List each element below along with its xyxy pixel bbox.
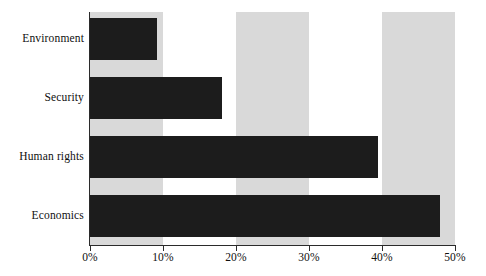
plot-area [90, 12, 455, 245]
bar-security[interactable] [90, 77, 222, 119]
x-tick-label-4: 40% [371, 252, 393, 264]
bar-environment[interactable] [90, 18, 157, 60]
category-label-human-rights: Human rights [19, 151, 90, 163]
x-tick-label-5: 50% [444, 252, 466, 264]
category-label-security: Security [44, 92, 90, 104]
bar-human-rights[interactable] [90, 136, 378, 178]
bar-economics[interactable] [90, 195, 440, 237]
y-axis-line [89, 12, 90, 246]
x-tick-label-0: 0% [82, 252, 98, 264]
x-tick-label-1: 10% [152, 252, 174, 264]
x-axis-line [89, 245, 456, 246]
x-tick-label-3: 30% [298, 252, 320, 264]
bar-chart: Environment Security Human rights Econom… [0, 0, 486, 276]
category-label-environment: Environment [22, 33, 90, 45]
x-tick-label-2: 20% [225, 252, 247, 264]
category-label-economics: Economics [32, 210, 90, 222]
